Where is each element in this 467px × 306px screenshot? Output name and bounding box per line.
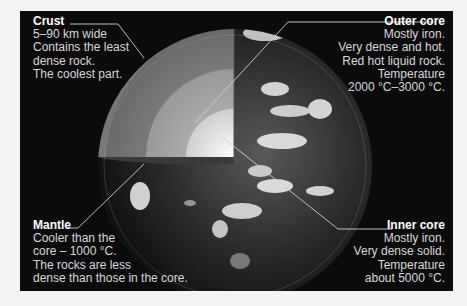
diagram-panel: Crust 5–90 km wide Contains the least de…: [20, 11, 453, 291]
outer-core-line: Red hot liquid rock.: [338, 55, 445, 68]
inner-core-line: Very dense solid.: [354, 245, 445, 258]
crust-line: Contains the least: [33, 41, 129, 54]
crust-label: Crust 5–90 km wide Contains the least de…: [33, 15, 129, 81]
outer-core-label: Outer core Mostly iron. Very dense and h…: [338, 15, 445, 94]
crust-line: The coolest part.: [33, 68, 129, 81]
outer-core-line: Very dense and hot.: [338, 41, 445, 54]
mantle-line: dense than those in the core.: [33, 272, 188, 285]
inner-core-label: Inner core Mostly iron. Very dense solid…: [354, 219, 445, 285]
inner-core-line: about 5000 °C.: [354, 272, 445, 285]
mantle-line: core – 1000 °C.: [33, 245, 188, 258]
mantle-label: Mantle Cooler than the core – 1000 °C. T…: [33, 219, 188, 285]
inner-core-line: Temperature: [354, 259, 445, 272]
mantle-line: The rocks are less: [33, 259, 188, 272]
crust-line: dense rock.: [33, 55, 129, 68]
outer-core-line: 2000 °C–3000 °C.: [338, 81, 445, 94]
